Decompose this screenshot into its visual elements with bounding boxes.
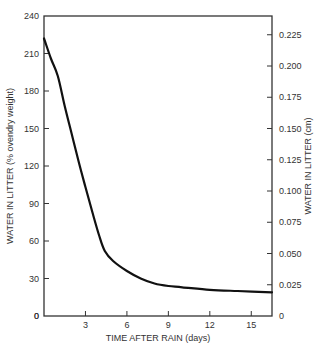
water-curve [44, 39, 272, 293]
y2-tick-label: 0.200 [279, 61, 302, 71]
svg-text:0: 0 [34, 311, 39, 321]
y-tick-label: 60 [29, 236, 39, 246]
y2-tick-label: 0.175 [279, 92, 302, 102]
y-tick-label: 180 [24, 86, 39, 96]
plot-frame [44, 16, 272, 316]
x-axis-title: TIME AFTER RAIN (days) [106, 333, 211, 343]
y2-axis-title: WATER IN LITTER (cm) [303, 118, 313, 215]
y-tick-label: 90 [29, 199, 39, 209]
y-tick-label: 240 [24, 11, 39, 21]
x-tick-label: 12 [205, 320, 215, 330]
y-tick-label: 120 [24, 161, 39, 171]
y2-tick-label: 0.075 [279, 217, 302, 227]
y2-tick-label: 0.125 [279, 155, 302, 165]
y2-tick-label: 0.150 [279, 124, 302, 134]
left-y-axis: 0306090120150180210240 [24, 11, 49, 321]
x-tick-label: 6 [124, 320, 129, 330]
y-tick-label: 30 [29, 274, 39, 284]
y2-tick-label: 0 [279, 311, 284, 321]
y2-tick-label: 0.050 [279, 249, 302, 259]
y2-tick-label: 0.100 [279, 186, 302, 196]
y-axis-title: WATER IN LITTER (% ovendry weight) [5, 88, 15, 244]
x-axis: 03691215 [34, 311, 256, 330]
y2-tick-label: 0.025 [279, 280, 302, 290]
x-tick-label: 9 [166, 320, 171, 330]
y2-tick-label: 0.225 [279, 30, 302, 40]
x-tick-label: 3 [83, 320, 88, 330]
x-tick-label: 15 [246, 320, 256, 330]
y-tick-label: 150 [24, 124, 39, 134]
y-tick-label: 210 [24, 49, 39, 59]
chart: 0306090120150180210240 00.0250.0500.0750… [0, 0, 321, 351]
